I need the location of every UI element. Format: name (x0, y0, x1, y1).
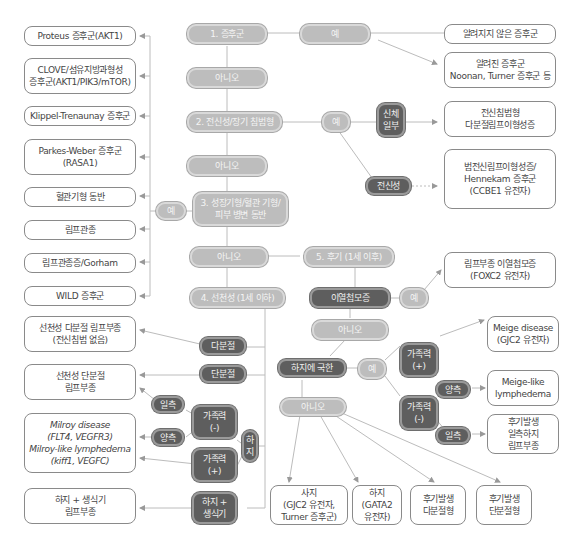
outcome-congenital-multi: 선천성 다분절 림프부종 (전신침범 없음) (24, 316, 136, 352)
outcome-gorham: 림프관종증/Gorham (24, 253, 136, 273)
step4-congenital: 4. 선천성 (1세 이하) (190, 288, 285, 308)
outcome-limbs: 사지 (GJC2 유전자, Turner 증후군) (270, 485, 348, 525)
step1-yes: 예 (300, 24, 370, 44)
step2-yes: 예 (322, 112, 350, 132)
outcome-klippel: Klippel-Trenaunay 증후군 (24, 106, 136, 126)
outcome-lymphangioma: 림프관종 (24, 220, 136, 240)
step5-unilateral: 일측 (436, 427, 470, 444)
step2-partial: 신체 일부 (377, 103, 405, 137)
step4-family-positive: 가족력 (+) (192, 448, 237, 482)
outcome-leg-genital: 하지 + 생식기 림프부종 (24, 488, 136, 524)
step1-syndrome: 1. 증후군 (187, 24, 267, 44)
outcome-congenital-single: 선천성 단분절 림프부종 (24, 364, 136, 400)
outcome-late-multi: 후기발생 다분절형 (410, 485, 466, 525)
outcome-meige: Meige disease (GJC2 유전자) (487, 316, 559, 352)
step5-leg-only: 하지에 국한 (278, 359, 346, 377)
step2-no: 아니오 (187, 156, 267, 176)
step4-leg: 하 지 (242, 430, 258, 462)
step2-systemic: 2. 전신성/장기 침범형 (187, 112, 282, 132)
step4-unilateral: 일측 (152, 396, 184, 413)
step5-leg-only-yes: 예 (358, 359, 386, 379)
step4-multisegment: 다분절 (200, 337, 246, 355)
outcome-partial: 전신침범형 다분절림프이형성증 (444, 101, 556, 137)
outcome-wild: WILD 증후군 (24, 286, 136, 306)
outcome-parkes-weber: Parkes-Weber 증후군 (RASA1) (24, 139, 136, 175)
step5-leg-only-no: 아니오 (280, 398, 346, 416)
step5-family-positive: 가족력 (+) (400, 343, 438, 377)
outcome-known-syndrome: 알려진 증후군 Noonan, Turner 증후군 등 (444, 52, 556, 88)
step2-whole-body: 전신성 (366, 177, 411, 195)
step4-leg-genital: 하지 + 생식기 (192, 492, 237, 524)
step4-family-negative: 가족력 (-) (192, 405, 237, 439)
outcome-hennekam: 범전신림프이형성증/ Hennekam 증후군 (CCBE1 유전자) (444, 149, 556, 209)
step5-family-negative: 가족력 (-) (400, 396, 438, 430)
step3-growth-vascular: 3. 성장기형/혈관 기형/ 피부 병변 동반 (193, 192, 288, 226)
lymphedema-classification-flowchart: 1. 증후군 예 아니오 2. 전신성/장기 침범형 예 아니오 3. 성장기형… (0, 0, 576, 546)
step1-no: 아니오 (187, 68, 267, 88)
step5-distichiasis-no: 아니오 (312, 320, 388, 340)
outcome-clove: CLOVE/섬유지방과형성 증후군(AKT1/PIK3/mTOR) (24, 58, 136, 94)
outcome-foxc2: 림프부종 이열첩모증 (FOXC2 유전자) (444, 252, 556, 288)
outcome-legs-gata2: 하지 (GATA2 유전자) (352, 485, 402, 525)
outcome-milroy: Milroy disease (FLT4, VEGFR3) Milroy-lik… (24, 413, 136, 473)
outcome-proteus: Proteus 증후군(AKT1) (24, 26, 136, 46)
step5-bilateral: 양측 (436, 381, 470, 398)
step3-yes: 예 (156, 202, 186, 220)
outcome-late-single: 후기발생 단분절형 (476, 485, 532, 525)
outcome-meige-like: Meige-like lymphedema (487, 370, 559, 406)
outcome-late-unilateral: 후기발생 일측하지 림프부종 (487, 414, 559, 454)
outcome-unknown-syndrome: 알려지지 않은 증후군 (444, 24, 556, 44)
step5-late-onset: 5. 후기 (1세 이후) (304, 247, 394, 267)
step5-distichiasis: 이열첩모증 (310, 288, 390, 308)
step4-bilateral: 양측 (152, 429, 184, 446)
step4-single-segment: 단분절 (200, 365, 246, 383)
outcome-vascular: 혈관기형 동반 (24, 187, 136, 207)
step5-distichiasis-yes: 예 (400, 288, 428, 308)
step3-no: 아니오 (190, 247, 268, 267)
